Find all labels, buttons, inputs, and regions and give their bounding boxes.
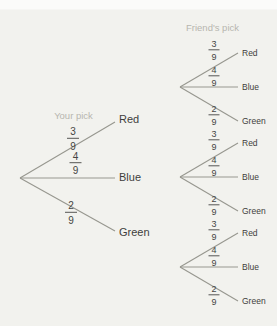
friends-pick-heading: Friend's pick	[186, 22, 239, 33]
outcome-label-green: Green	[119, 226, 150, 238]
fraction-red-denominator: 9	[70, 141, 76, 152]
your-pick-heading: Your pick	[54, 110, 93, 121]
probability-tree-diagram: 3 9 4 9 2 9 Red Blue Green Your pick Fri…	[0, 0, 277, 326]
fraction-green-numerator: 2	[68, 200, 74, 211]
fraction-blue-numerator: 4	[73, 151, 79, 162]
fraction-red-numerator: 3	[70, 126, 76, 137]
panel-background	[0, 10, 277, 326]
fraction-blue-denominator: 9	[73, 165, 79, 176]
fraction-green-denominator: 9	[68, 215, 74, 226]
tree-diagram-canvas: 3 9 4 9 2 9 Red Blue Green Your pick Fri…	[0, 0, 277, 326]
outcome-label-blue: Blue	[119, 171, 141, 183]
outcome-label-red: Red	[119, 113, 139, 125]
